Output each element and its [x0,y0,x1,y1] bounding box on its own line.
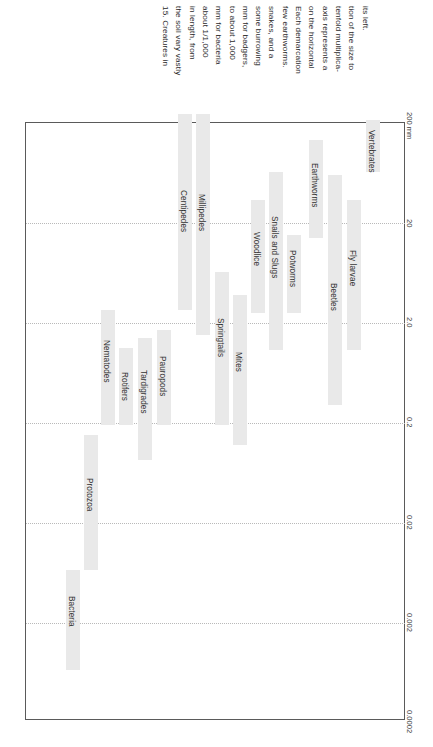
caption-line: tion of the size to [347,6,356,70]
caption-line: mm for badgers, [241,6,250,67]
caption-line: snakes, and a [267,6,276,59]
caption-line: tenfold multiplica- [334,6,343,72]
axis-tick-label: 0.02 [405,515,414,530]
caption-line: axis represents a [321,6,330,70]
caption-line: the soil vary vastly [174,6,183,75]
caption-line: Each demarcation [294,6,303,74]
axis-tick-label: 20 [405,219,414,227]
figure-caption: 15. Creatures inthe soil vary vastlyin l… [170,0,410,118]
chart-frame [25,122,405,720]
caption-line: its left. [361,6,370,31]
caption-line: few earthworms. [281,6,290,68]
caption-line: about 1/1,000 [201,6,210,58]
caption-line: to about 1,000 [228,6,237,60]
caption-line: mm for bacteria [214,6,223,65]
axis-tick-label: 0.002 [405,613,414,632]
caption-line: some burrowing [254,6,263,66]
axis-tick-label: 0.0002 [405,710,414,733]
axis-tick-label: 2.0 [405,317,414,328]
caption-line: 15. Creatures in [161,6,170,66]
axis-tick-label: 0.2 [405,417,414,428]
caption-line: on the horizontal [307,6,316,69]
caption-line: in length, from [188,6,197,60]
